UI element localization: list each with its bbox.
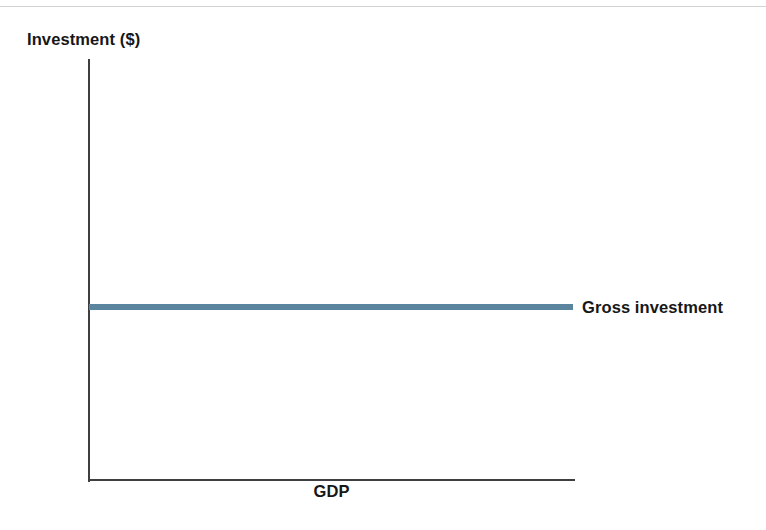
y-axis-line (88, 59, 90, 482)
y-axis-title: Investment ($) (27, 30, 140, 49)
x-axis-title: GDP (88, 482, 575, 501)
page-top-rule (0, 6, 766, 7)
plot-area (90, 60, 574, 479)
chart-figure: Investment ($) GDP Gross investment (0, 0, 766, 530)
gross-investment-line (89, 304, 573, 310)
gross-investment-label: Gross investment (582, 298, 723, 317)
x-axis-line (88, 479, 575, 481)
